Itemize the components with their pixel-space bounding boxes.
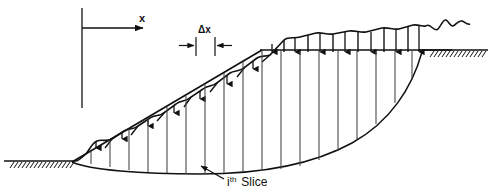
slip-surface-arc [72, 52, 422, 174]
ground-line-right-group [418, 50, 488, 57]
upper-slice-dividers-group [105, 26, 408, 148]
delta-x-dimension-group: Δx [179, 24, 232, 56]
upper-slice-divider [184, 97, 191, 107]
slope-stability-diagram: x Δx [0, 0, 492, 195]
slip-surface-group [72, 52, 422, 174]
upper-slice-divider [237, 67, 245, 77]
slice-label-word: Slice [241, 175, 267, 189]
ground-hatching-left [10, 162, 74, 168]
slice-lines-group [91, 51, 412, 174]
upper-slice-divider [210, 82, 218, 92]
slice-label-superscript: th [230, 175, 237, 184]
x-axis-label: x [139, 12, 146, 24]
ground-hatching-right [430, 51, 486, 57]
slice-label-text: ithSlice [227, 175, 268, 189]
surcharge-arrows-group [96, 26, 419, 148]
diagram-canvas: x Δx [0, 0, 492, 195]
upper-slice-divider [157, 112, 165, 121]
surface-break-squiggle [426, 20, 470, 30]
natural-ground-profile-line [86, 25, 426, 154]
slice-label-group: ithSlice [201, 166, 268, 189]
ground-line-left-group [4, 161, 76, 168]
x-axis-group: x [82, 8, 146, 108]
surface-toe-curl [76, 154, 86, 161]
delta-x-label: Δx [198, 24, 211, 35]
natural-ground-surface-group [76, 20, 470, 161]
